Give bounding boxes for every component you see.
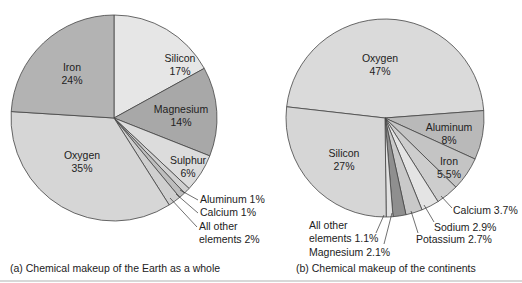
label-iron-b: Iron5.5% [437,155,461,180]
label-sodium-b: Sodium 2.9% [434,221,496,233]
divider [0,280,522,282]
label-other-a: All otherelements 2% [199,220,260,245]
caption-a: (a) Chemical makeup of the Earth as a wh… [10,262,220,274]
caption-b: (b) Chemical makeup of the continents [296,262,476,274]
label-iron-a: Iron24% [61,61,82,86]
pie-chart-continents [286,19,484,217]
label-other-b: All otherelements 1.1% [309,219,378,244]
label-aluminum-a: Aluminum 1% [200,193,265,205]
label-calcium-b: Calcium 3.7% [453,204,518,216]
label-magnesium-b: Magnesium 2.1% [309,246,390,258]
label-potassium-b: Potassium 2.7% [416,233,492,245]
label-calcium-a: Calcium 1% [200,206,256,218]
charts-canvas: Silicon17% Magnesium14% Sulphur6% Oxygen… [0,0,522,283]
